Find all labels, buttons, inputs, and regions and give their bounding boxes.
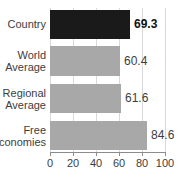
category-label-world-average: World Average <box>0 49 46 73</box>
bar-regional-average <box>50 84 121 113</box>
bar-world-average <box>50 46 120 76</box>
value-label-regional-average: 61.6 <box>125 91 148 105</box>
category-label-country: Country <box>0 18 46 30</box>
value-label-free-economies: 84.6 <box>151 128 174 142</box>
bar-country <box>50 10 130 39</box>
x-tick-mark-0 <box>50 152 51 156</box>
value-label-country: 69.3 <box>134 17 157 31</box>
category-label-regional-average: Regional Average <box>0 87 46 111</box>
bar-free-economies <box>50 121 147 150</box>
value-label-world-average: 60.4 <box>124 54 147 68</box>
x-tick-mark-60 <box>119 152 120 156</box>
x-tick-mark-20 <box>73 152 74 156</box>
x-tick-mark-100 <box>165 152 166 156</box>
x-tick-mark-40 <box>96 152 97 156</box>
x-tick-mark-80 <box>142 152 143 156</box>
x-tick-label-100: 100 <box>150 157 180 170</box>
category-label-free-economies: Free Economies <box>0 124 46 148</box>
bar-chart: 0 20 40 60 80 100 Country World Average … <box>0 0 193 177</box>
x-axis-line <box>50 152 166 153</box>
